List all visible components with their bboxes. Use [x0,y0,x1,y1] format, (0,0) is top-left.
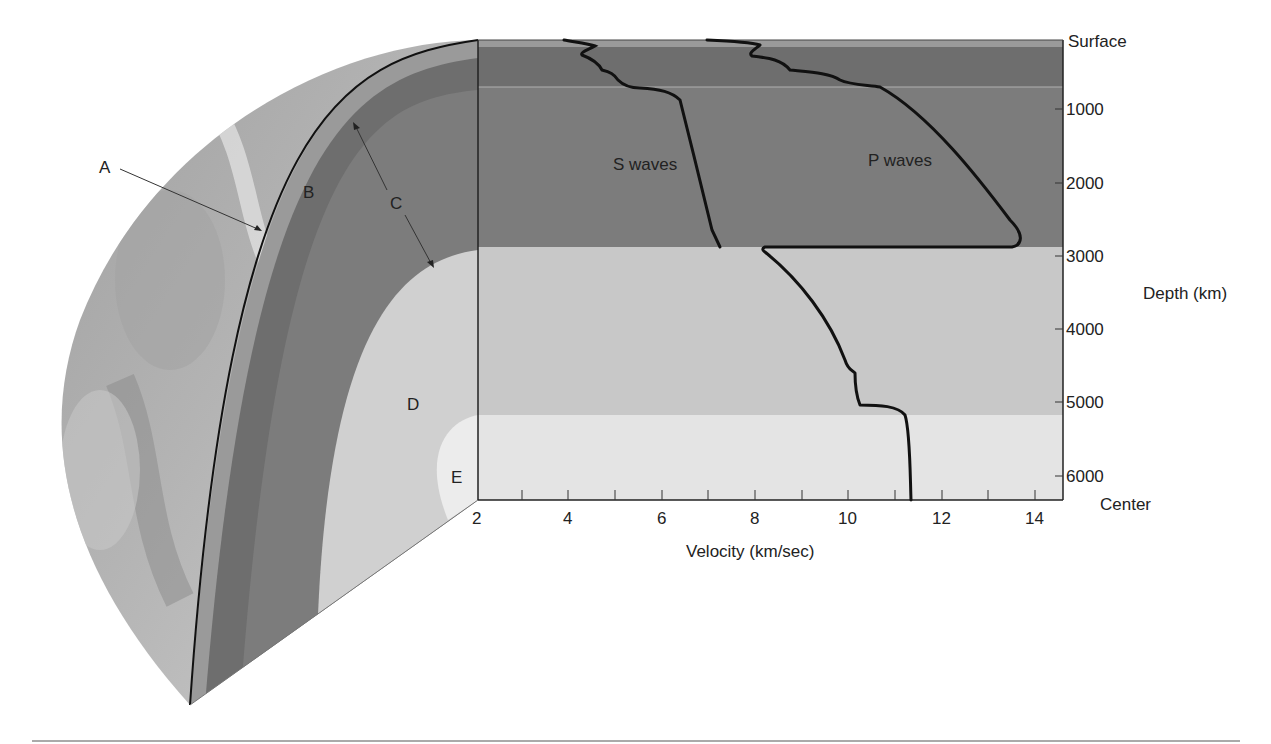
svg-text:10: 10 [838,509,857,528]
chart-plot-area [478,40,1063,500]
globe-surface [0,0,480,744]
depth-axis-title: Depth (km) [1143,284,1227,303]
layer-label-b: B [303,183,314,202]
surface-label: Surface [1068,32,1127,51]
velocity-tick-labels: 2 4 6 8 10 12 14 [472,509,1044,528]
p-waves-label: P waves [868,151,932,170]
svg-text:5000: 5000 [1066,393,1104,412]
svg-text:2: 2 [472,509,481,528]
earth-interior-diagram: S waves P waves 2 4 6 8 10 12 14 Velocit… [0,0,1271,744]
svg-text:6000: 6000 [1066,467,1104,486]
svg-text:14: 14 [1025,509,1044,528]
layer-label-c: C [390,194,402,213]
s-waves-label: S waves [613,155,677,174]
svg-text:3000: 3000 [1066,247,1104,266]
velocity-axis-title: Velocity (km/sec) [686,542,814,561]
svg-text:12: 12 [932,509,951,528]
svg-text:1000: 1000 [1066,100,1104,119]
layer-label-e: E [451,468,462,487]
depth-tick-labels: Surface 1000 2000 3000 4000 5000 6000 Ce… [1066,32,1151,514]
svg-text:4000: 4000 [1066,320,1104,339]
layer-label-d: D [407,395,419,414]
svg-text:6: 6 [657,509,666,528]
svg-text:4: 4 [563,509,572,528]
svg-text:8: 8 [750,509,759,528]
svg-text:2000: 2000 [1066,174,1104,193]
layer-label-a: A [99,158,111,177]
center-label: Center [1100,495,1151,514]
